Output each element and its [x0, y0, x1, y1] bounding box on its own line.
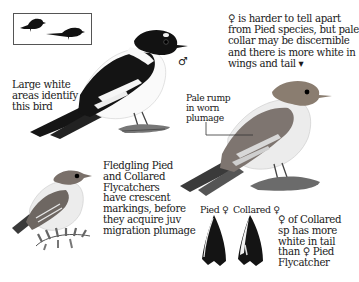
pale-rump-callout: Pale rump in worn plumage — [186, 93, 230, 123]
fledgling-caption: Fledgling Pied and Collared Flycatchers … — [103, 161, 195, 237]
tail-label-pied-female: Pied ♀ — [200, 204, 229, 215]
pied-female-tail-illustration — [200, 215, 230, 267]
callout-leader-line — [205, 122, 255, 140]
male-sex-symbol: ♂ — [178, 56, 188, 67]
tail-comparison-caption: ♀ of Collared sp has more white in tail … — [278, 215, 341, 269]
fledgling-flycatcher-illustration — [12, 162, 102, 252]
collared-female-tail-illustration — [235, 215, 267, 267]
tail-label-collared-female: Collared ♀ — [233, 204, 280, 215]
male-caption: Large white areas identify this bird — [12, 79, 78, 112]
female-caption: ♀ is harder to tell apart from Pied spec… — [228, 13, 359, 69]
